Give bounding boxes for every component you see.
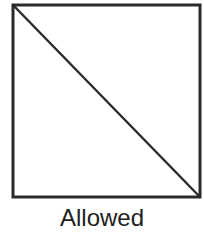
caption-label: Allowed	[0, 204, 204, 232]
square-diagonal-diagram	[0, 0, 204, 205]
allowed-figure: Allowed	[0, 0, 204, 233]
